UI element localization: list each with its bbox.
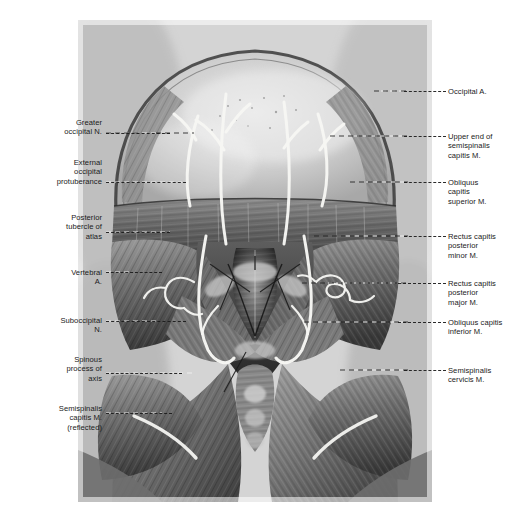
leader-upper-end-semispinalis-capitis (404, 136, 446, 137)
label-semispinalis-cervicis: Semispinalis cervicis M. (448, 366, 530, 385)
label-rectus-capitis-posterior-minor: Rectus capitis posterior minor M. (448, 232, 530, 260)
label-occipital-artery: Occipital A. (448, 87, 530, 96)
label-external-occipital-protuberance: External occipital protuberance (22, 158, 102, 186)
label-upper-end-semispinalis-capitis: Upper end of semispinalis capitis M. (448, 132, 530, 160)
label-posterior-tubercle-of-atlas: Posterior tubercle of atlas (28, 213, 102, 241)
label-semispinalis-capitis-reflected: Semispinalis capitis M. (reflected) (18, 404, 102, 432)
leader-spinous-process-of-axis (106, 373, 182, 374)
leader-external-occipital-protuberance (106, 182, 186, 183)
label-greater-occipital-nerve: Greater occipital N. (30, 118, 102, 137)
leader-occipital-artery (404, 91, 446, 92)
label-rectus-capitis-posterior-major: Rectus capitis posterior major M. (448, 279, 530, 307)
label-obliquus-capitis-superior: Obliquus capitis superior M. (448, 178, 530, 206)
label-vertebral-artery: Vertebral A. (34, 268, 102, 287)
anatomy-illustration (78, 20, 432, 502)
leader-posterior-tubercle-of-atlas (106, 232, 170, 233)
leader-vertebral-artery (106, 272, 162, 273)
label-suboccipital-nerve: Suboccipital N. (22, 316, 102, 335)
anatomy-svg (78, 20, 432, 502)
leader-greater-occipital-nerve (106, 133, 170, 134)
leader-obliquus-capitis-inferior (398, 322, 446, 323)
label-spinous-process-of-axis: Spinous process of axis (28, 355, 102, 383)
leader-rectus-capitis-posterior-major (398, 283, 446, 284)
leader-suboccipital-nerve (106, 321, 186, 322)
leader-obliquus-capitis-superior (404, 182, 446, 183)
leader-semispinalis-cervicis (404, 370, 446, 371)
leader-semispinalis-capitis-reflected (106, 413, 172, 414)
anatomical-plate: Greater occipital N. External occipital … (0, 0, 530, 528)
label-obliquus-capitis-inferior: Obliquus capitis inferior M. (448, 318, 530, 337)
leader-rectus-capitis-posterior-minor (404, 236, 446, 237)
